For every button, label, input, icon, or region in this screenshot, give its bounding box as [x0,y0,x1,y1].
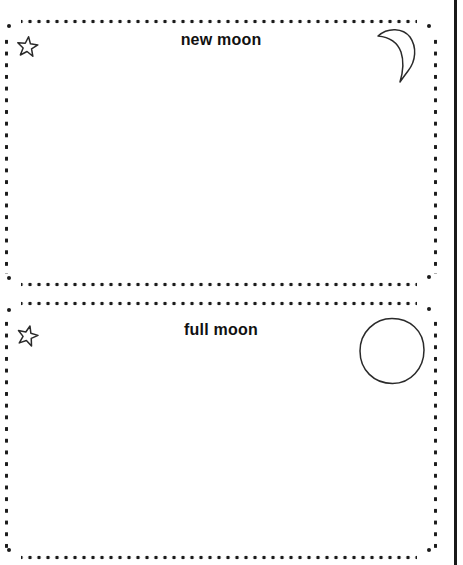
dotted-border-left [3,36,10,274]
corner-dot [427,307,431,311]
corner-dot [7,276,11,280]
corner-dot [427,275,431,279]
corner-dot [7,548,11,552]
dotted-border-bottom [21,281,417,288]
dotted-border-left [3,318,10,548]
dotted-border-top [21,18,417,25]
page-edge-line [454,0,457,565]
corner-dot [427,24,431,28]
corner-dot [427,548,431,552]
full-moon-icon [357,316,427,386]
flashcard-new-moon: new moon [3,18,439,288]
worksheet-page: new moon full moon [0,0,463,565]
dotted-border-right [432,36,439,274]
corner-dot [7,308,11,312]
crescent-moon-icon [373,26,419,84]
corner-dot [7,24,11,28]
dotted-border-top [21,300,417,307]
dotted-border-right [432,318,439,548]
dotted-border-bottom [21,554,417,561]
flashcard-full-moon: full moon [3,300,439,565]
